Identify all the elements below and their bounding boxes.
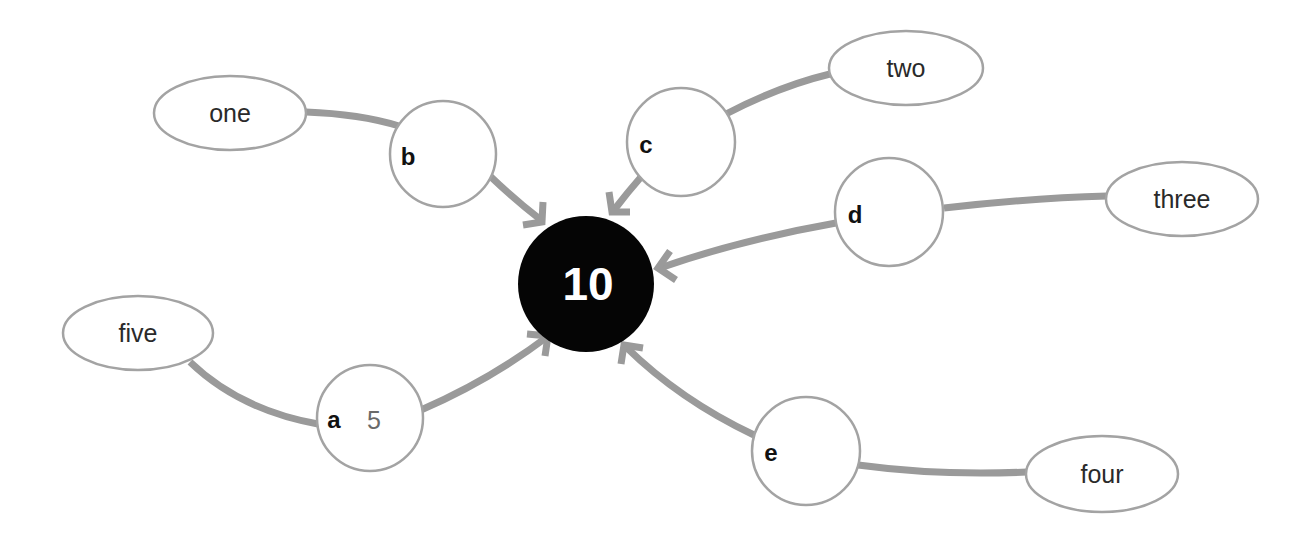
node-c-letter: c xyxy=(639,131,652,158)
edge-five-to-a xyxy=(190,362,318,424)
edge-c-to-center xyxy=(614,177,641,210)
center-value: 10 xyxy=(562,258,613,310)
edge-d-to-center xyxy=(660,223,836,268)
node-d: d xyxy=(835,158,943,266)
node-a-letter: a xyxy=(327,406,341,433)
node-e-letter: e xyxy=(764,439,777,466)
edge-four-to-e xyxy=(858,465,1027,473)
leaf-one: one xyxy=(154,76,306,150)
leaf-five: five xyxy=(63,296,213,370)
node-a-value: 5 xyxy=(367,406,381,434)
leaf-three-label: three xyxy=(1154,185,1211,213)
edge-two-to-c xyxy=(726,74,830,114)
node-e: e xyxy=(752,397,860,505)
leaf-four-label: four xyxy=(1080,460,1123,488)
center-node: 10 xyxy=(518,216,654,352)
leaf-one-label: one xyxy=(209,99,251,127)
node-c: c xyxy=(627,88,735,196)
node-d-letter: d xyxy=(848,201,863,228)
leaf-four: four xyxy=(1026,436,1178,512)
edge-a-to-center xyxy=(421,337,547,410)
edge-three-to-d xyxy=(944,196,1107,208)
node-b: b xyxy=(390,101,496,207)
leaf-five-label: five xyxy=(119,319,158,347)
leaf-two-label: two xyxy=(887,54,926,82)
edge-one-to-b xyxy=(306,112,399,126)
edge-e-to-center xyxy=(626,347,754,435)
node-b-letter: b xyxy=(401,143,416,170)
leaf-three: three xyxy=(1106,162,1258,236)
edge-b-to-center xyxy=(490,176,541,220)
leaf-two: two xyxy=(829,31,983,105)
tree-diagram: one two three four five a 5 b xyxy=(0,0,1311,547)
node-a: a 5 xyxy=(317,365,423,471)
